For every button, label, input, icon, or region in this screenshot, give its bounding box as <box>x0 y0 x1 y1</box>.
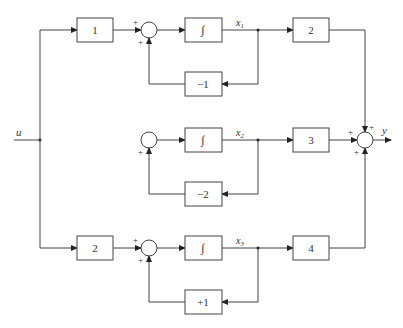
summer-2 <box>141 132 157 148</box>
block-diagram: u 1 + + ∫ x1 2 −1 + ∫ x2 <box>0 0 403 328</box>
gain-in-label-1: 1 <box>92 24 98 36</box>
feedback-label-2: −2 <box>197 188 209 200</box>
state-label-3: x3 <box>235 235 244 248</box>
summer-3 <box>141 240 157 256</box>
output-sign-top: + <box>369 122 374 132</box>
row-1: 1 + + ∫ x1 2 −1 <box>77 17 365 132</box>
input-label: u <box>16 126 22 138</box>
output-sign-bottom: + <box>354 147 359 157</box>
summer-2-sign-bottom: + <box>138 147 143 157</box>
feedback-label-3: +1 <box>197 296 209 308</box>
integrator-label-1: ∫ <box>200 23 205 37</box>
gain-out-label-1: 2 <box>308 24 314 36</box>
output-sign-left: + <box>348 127 353 137</box>
summer-1-sign-top: + <box>133 17 138 27</box>
row-3: 2 + + ∫ x3 4 +1 <box>77 148 365 314</box>
summer-3-sign-bottom: + <box>138 255 143 265</box>
gain-out-label-3: 4 <box>308 242 314 254</box>
summer-1 <box>141 22 157 38</box>
integrator-label-2: ∫ <box>200 133 205 147</box>
summer-1-sign-bottom: + <box>138 37 143 47</box>
state-label-1: x1 <box>235 17 244 30</box>
row-2: + ∫ x2 3 −2 <box>138 127 357 206</box>
feedback-label-1: −1 <box>197 78 209 90</box>
output-label: y <box>381 124 387 136</box>
input-signal: u <box>14 30 77 248</box>
gain-out-label-2: 3 <box>308 134 314 146</box>
summer-3-sign-top: + <box>133 235 138 245</box>
gain-in-label-3: 2 <box>92 242 98 254</box>
state-label-2: x2 <box>235 127 244 140</box>
integrator-label-3: ∫ <box>200 241 205 255</box>
